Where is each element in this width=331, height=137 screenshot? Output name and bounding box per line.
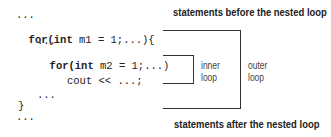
code-line-ellipsis-3: ...	[37, 89, 56, 101]
inner-bracket-bottom	[163, 83, 193, 84]
label-statements-before: statements before the nested loop	[173, 6, 327, 18]
code-line-ellipsis-1: ...	[16, 9, 35, 21]
code-line-cout: cout << ...;	[67, 75, 143, 87]
outer-bracket-top	[163, 30, 241, 31]
label-statements-after: statements after the nested loop	[174, 118, 319, 130]
outer-label-line2: loop	[248, 72, 267, 84]
inner-for-keyword: for(int	[50, 60, 94, 72]
inner-label-line2: loop	[201, 72, 220, 84]
inner-for-rest: m2 = 1;...)	[94, 60, 170, 72]
outer-bracket-bottom	[163, 108, 241, 109]
inner-bracket-top	[163, 55, 193, 56]
code-line-ellipsis-2: ...	[37, 35, 56, 47]
inner-bracket-right	[193, 55, 194, 84]
outer-for-rest: m1 = 1;...){	[73, 34, 155, 46]
outer-label-line1: outer	[248, 60, 267, 72]
code-line-inner-for: for(int m2 = 1;...)	[37, 48, 169, 72]
inner-label-line1: inner	[201, 60, 220, 72]
outer-bracket-right	[240, 30, 241, 109]
code-line-ellipsis-4: ...	[16, 111, 35, 123]
label-outer-loop: outer loop	[248, 60, 267, 84]
label-inner-loop: inner loop	[201, 60, 220, 84]
